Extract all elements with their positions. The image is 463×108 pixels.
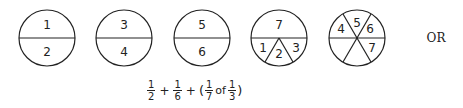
numerator: 1 bbox=[205, 79, 213, 91]
fraction-one-seventh: 1 7 bbox=[205, 79, 213, 102]
plus-sign: + bbox=[159, 84, 169, 98]
circle-4-middle-label: 2 bbox=[275, 47, 283, 61]
numerator: 1 bbox=[147, 79, 155, 91]
circle-3-top-label: 5 bbox=[198, 18, 206, 32]
fraction-one-half: 1 2 bbox=[147, 79, 155, 102]
circle-1-top-label: 1 bbox=[43, 18, 51, 32]
circle-4-left-label: 1 bbox=[259, 41, 267, 55]
circle-5-upper-left-label: 4 bbox=[337, 22, 345, 36]
fraction-formula: 1 2 + 1 6 + ( 1 7 of 1 3 ) bbox=[146, 79, 242, 102]
circle-2-bottom-label: 4 bbox=[120, 45, 128, 59]
denominator: 3 bbox=[229, 91, 235, 102]
circle-5-upper-right-label: 6 bbox=[366, 22, 374, 36]
circle-1-bottom-label: 2 bbox=[43, 45, 51, 59]
open-paren: ( bbox=[199, 83, 204, 98]
fraction-one-third: 1 3 bbox=[228, 79, 236, 102]
circle-3-bottom-label: 6 bbox=[198, 45, 206, 59]
circle-5-top-label: 5 bbox=[353, 16, 361, 30]
circle-4-right-label: 3 bbox=[292, 41, 300, 55]
or-label: OR bbox=[427, 31, 447, 45]
circle-5-lower-right-label: 7 bbox=[368, 41, 376, 55]
denominator: 6 bbox=[174, 91, 180, 102]
fraction-one-sixth: 1 6 bbox=[173, 79, 181, 102]
denominator: 7 bbox=[206, 91, 212, 102]
denominator: 2 bbox=[148, 91, 154, 102]
circle-2-top-label: 3 bbox=[120, 18, 128, 32]
of-word: of bbox=[215, 84, 226, 97]
plus-sign: + bbox=[186, 84, 196, 98]
circle-4-top-label: 7 bbox=[275, 18, 283, 32]
close-paren: ) bbox=[237, 83, 242, 98]
numerator: 1 bbox=[173, 79, 181, 91]
numerator: 1 bbox=[228, 79, 236, 91]
